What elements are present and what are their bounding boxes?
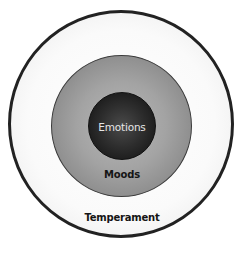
moods-label: Moods [104,169,140,181]
concentric-affect-diagram: Emotions Moods Temperament [0,0,242,253]
emotions-label: Emotions [98,121,145,133]
temperament-label: Temperament [84,212,159,224]
